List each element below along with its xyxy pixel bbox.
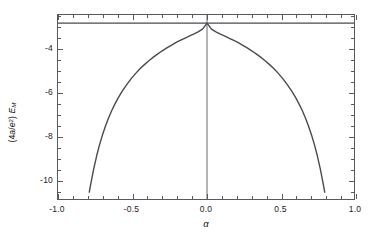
x-minor-tick — [177, 196, 178, 199]
x-tick-label: 1.0 — [349, 204, 361, 214]
y-tick-label: -6 — [31, 87, 53, 97]
y-axis-title: (4a/e2) EM — [2, 0, 22, 245]
y-minor-tick — [58, 104, 61, 105]
y-title-slash: / — [7, 127, 17, 129]
plot-area — [57, 14, 355, 200]
y-major-tick — [58, 137, 63, 138]
x-tick-label: -1.0 — [49, 204, 64, 214]
x-minor-tick — [147, 196, 148, 199]
x-major-tick — [356, 194, 357, 199]
x-minor-tick — [118, 196, 119, 199]
x-minor-tick — [237, 196, 238, 199]
y-tick-label: -10 — [31, 175, 53, 185]
y-minor-tick-right — [351, 104, 354, 105]
y-major-tick-right — [349, 49, 354, 50]
x-minor-tick-top — [88, 15, 89, 18]
y-tick-label: -4 — [31, 43, 53, 53]
x-minor-tick-top — [341, 15, 342, 18]
x-tick-label: 0.5 — [274, 204, 286, 214]
x-major-tick-top — [356, 15, 357, 20]
x-tick-label: 0.0 — [200, 204, 212, 214]
y-title-exponent: 2 — [7, 119, 14, 123]
y-major-tick-right — [349, 137, 354, 138]
y-tick-label: -8 — [31, 131, 53, 141]
y-minor-tick-right — [351, 148, 354, 149]
y-minor-tick — [58, 148, 61, 149]
x-major-tick — [282, 194, 283, 199]
x-minor-tick — [88, 196, 89, 199]
y-major-tick — [58, 93, 63, 94]
x-minor-tick-top — [222, 15, 223, 18]
x-minor-tick — [192, 196, 193, 199]
x-minor-tick-top — [192, 15, 193, 18]
y-title-E: E — [7, 108, 17, 114]
x-minor-tick-top — [326, 15, 327, 18]
y-minor-tick — [58, 126, 61, 127]
x-minor-tick — [162, 196, 163, 199]
y-minor-tick — [58, 38, 61, 39]
y-major-tick — [58, 49, 63, 50]
y-minor-tick-right — [351, 115, 354, 116]
y-minor-tick — [58, 192, 61, 193]
x-minor-tick-top — [73, 15, 74, 18]
x-minor-tick — [73, 196, 74, 199]
x-minor-tick-top — [311, 15, 312, 18]
x-minor-tick-top — [237, 15, 238, 18]
y-minor-tick — [58, 27, 61, 28]
y-axis-title-text: (4a/e2) EM — [7, 103, 18, 143]
x-minor-tick — [222, 196, 223, 199]
x-major-tick-top — [207, 15, 208, 20]
y-minor-tick-right — [351, 16, 354, 17]
y-minor-tick — [58, 71, 61, 72]
x-minor-tick — [311, 196, 312, 199]
x-minor-tick — [326, 196, 327, 199]
plot-canvas — [58, 15, 354, 199]
y-minor-tick — [58, 115, 61, 116]
y-minor-tick — [58, 170, 61, 171]
y-minor-tick-right — [351, 27, 354, 28]
x-minor-tick — [252, 196, 253, 199]
x-major-tick — [58, 194, 59, 199]
y-title-subscript: M — [10, 103, 17, 108]
y-minor-tick-right — [351, 38, 354, 39]
y-major-tick-right — [349, 93, 354, 94]
y-minor-tick-right — [351, 192, 354, 193]
x-minor-tick-top — [177, 15, 178, 18]
y-minor-tick — [58, 82, 61, 83]
x-minor-tick-top — [296, 15, 297, 18]
y-title-close: ) — [7, 114, 17, 119]
y-minor-tick-right — [351, 159, 354, 160]
y-minor-tick-right — [351, 60, 354, 61]
y-title-a: a — [7, 130, 17, 135]
y-title-prefix: (4 — [7, 135, 17, 143]
x-minor-tick — [341, 196, 342, 199]
y-major-tick — [58, 181, 63, 182]
x-major-tick-top — [282, 15, 283, 20]
y-minor-tick-right — [351, 170, 354, 171]
x-minor-tick-top — [252, 15, 253, 18]
y-minor-tick — [58, 159, 61, 160]
x-minor-tick — [296, 196, 297, 199]
x-axis-title-text: α — [203, 218, 208, 229]
x-major-tick-top — [133, 15, 134, 20]
x-minor-tick — [267, 196, 268, 199]
y-minor-tick — [58, 60, 61, 61]
y-minor-tick-right — [351, 82, 354, 83]
y-major-tick-right — [349, 181, 354, 182]
x-minor-tick-top — [103, 15, 104, 18]
x-minor-tick-top — [162, 15, 163, 18]
plot-clip — [58, 15, 354, 199]
x-major-tick — [133, 194, 134, 199]
x-major-tick — [207, 194, 208, 199]
madelung-energy-figure: (4a/e2) EM -1.0-0.50.00.51.0-4-6-8-10 α — [0, 0, 374, 245]
y-title-e: e — [7, 123, 17, 128]
x-minor-tick-top — [267, 15, 268, 18]
y-minor-tick-right — [351, 71, 354, 72]
y-minor-tick — [58, 16, 61, 17]
x-minor-tick-top — [118, 15, 119, 18]
x-minor-tick — [103, 196, 104, 199]
x-axis-title: α — [57, 218, 355, 229]
y-minor-tick-right — [351, 126, 354, 127]
x-tick-label: -0.5 — [124, 204, 139, 214]
x-minor-tick-top — [147, 15, 148, 18]
